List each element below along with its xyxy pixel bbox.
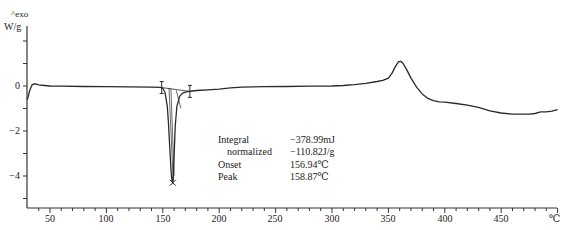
x-tick-label: 350 <box>373 213 403 225</box>
peak-value: 158.87℃ <box>290 171 329 183</box>
peak-row: Peak 158.87℃ <box>218 171 335 183</box>
normalized-value: −110.82J/g <box>290 146 334 158</box>
x-tick-label: 50 <box>35 213 65 225</box>
x-tick-label: 300 <box>317 213 347 225</box>
integral-label: Integral <box>218 134 290 146</box>
onset-label: Onset <box>218 159 290 171</box>
normalized-row: normalized −110.82J/g <box>218 146 335 158</box>
dsc-chart <box>0 0 568 230</box>
peak-label: Peak <box>218 171 290 183</box>
normalized-label: normalized <box>218 146 290 158</box>
y-tick-label: −2 <box>0 125 20 137</box>
chart-axes <box>23 26 558 213</box>
integral-value: −378.99mJ <box>290 134 335 146</box>
integration-results-box: Integral −378.99mJ normalized −110.82J/g… <box>218 134 335 184</box>
onset-row: Onset 156.94℃ <box>218 159 335 171</box>
y-axis-unit: W/g <box>4 21 21 33</box>
x-tick-label: 200 <box>204 213 234 225</box>
onset-value: 156.94℃ <box>290 159 329 171</box>
y-tick-label: −4 <box>0 170 20 182</box>
x-tick-label: 450 <box>486 213 516 225</box>
x-tick-label: 100 <box>91 213 121 225</box>
x-axis-unit: ℃ <box>549 213 560 225</box>
integral-row: Integral −378.99mJ <box>218 134 335 146</box>
x-tick-label: 250 <box>260 213 290 225</box>
y-tick-label: 0 <box>0 80 20 92</box>
x-tick-label: 400 <box>430 213 460 225</box>
exo-direction-label: ^exo <box>11 8 28 20</box>
integration-baseline <box>162 88 190 92</box>
x-tick-label: 150 <box>148 213 178 225</box>
